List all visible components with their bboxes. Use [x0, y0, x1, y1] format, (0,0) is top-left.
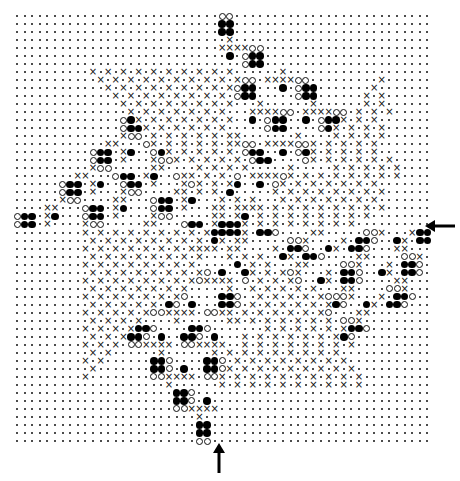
- grid-point: [423, 100, 431, 108]
- arrow-left-icon: [425, 219, 455, 233]
- grid-point: [423, 357, 431, 365]
- grid-point: [423, 285, 431, 293]
- grid-point: [423, 28, 431, 36]
- grid-point: [423, 389, 431, 397]
- grid-point: [423, 68, 431, 76]
- grid-point: [423, 397, 431, 405]
- grid-point: [423, 301, 431, 309]
- grid-point: [423, 164, 431, 172]
- grid-point: [423, 196, 431, 204]
- grid-point: [423, 373, 431, 381]
- filled-circle: [423, 237, 431, 245]
- grid-point: [423, 381, 431, 389]
- grid-point: [423, 20, 431, 28]
- grid-point: [423, 92, 431, 100]
- grid-point: [423, 156, 431, 164]
- grid-point: [423, 429, 431, 437]
- grid-point: [423, 437, 431, 445]
- grid-point: [423, 269, 431, 277]
- grid-point: [423, 405, 431, 413]
- grid-point: [423, 341, 431, 349]
- grid-point: [423, 148, 431, 156]
- grid-point: [423, 180, 431, 188]
- grid-point: [423, 36, 431, 44]
- grid-point: [423, 277, 431, 285]
- grid-point: [423, 309, 431, 317]
- grid-point: [423, 365, 431, 373]
- grid-point: [423, 116, 431, 124]
- grid-point: [423, 333, 431, 341]
- grid-point: [423, 261, 431, 269]
- grid-point: [423, 84, 431, 92]
- grid-point: [423, 293, 431, 301]
- grid-point: [423, 317, 431, 325]
- grid-point: [423, 421, 431, 429]
- grid-point: [423, 325, 431, 333]
- grid-point: [423, 253, 431, 261]
- grid-point: [423, 188, 431, 196]
- grid-point: [423, 132, 431, 140]
- grid-point: [423, 413, 431, 421]
- grid-point: [423, 76, 431, 84]
- grid-point: [423, 349, 431, 357]
- grid-point: [423, 12, 431, 20]
- go-board-diagram: ××××××××××××××××××××××××××××××××××××××××…: [0, 0, 460, 481]
- grid-point: [423, 140, 431, 148]
- grid-point: [423, 124, 431, 132]
- grid-point: [423, 52, 431, 60]
- grid-point: [423, 108, 431, 116]
- grid-point: [423, 245, 431, 253]
- grid-point: [423, 60, 431, 68]
- arrow-up-icon: [212, 443, 226, 473]
- grid-point: [423, 172, 431, 180]
- grid-point: [423, 204, 431, 212]
- grid-point: [423, 44, 431, 52]
